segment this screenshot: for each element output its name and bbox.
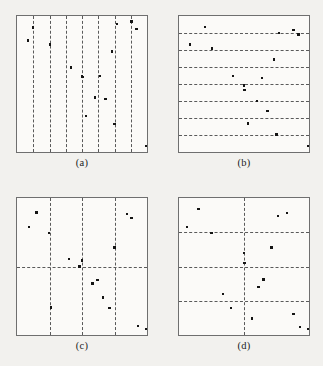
- data-point: [78, 265, 80, 267]
- data-point: [299, 326, 301, 328]
- gridline-horizontal: [179, 33, 309, 34]
- panel-c: (c): [16, 197, 148, 357]
- data-point: [210, 232, 212, 234]
- gridline-vertical: [131, 16, 132, 152]
- scatter-plot-d: [178, 197, 310, 336]
- data-point: [145, 328, 147, 330]
- data-point: [256, 100, 258, 102]
- gridline-vertical: [115, 16, 116, 152]
- scatter-plot-c: [16, 197, 148, 336]
- gridline-vertical: [82, 16, 83, 152]
- data-point: [243, 89, 245, 91]
- data-point: [130, 217, 132, 219]
- data-point: [108, 307, 110, 309]
- data-point: [292, 29, 294, 31]
- gridline-horizontal: [179, 101, 309, 102]
- data-point: [81, 76, 83, 78]
- data-point: [275, 133, 277, 135]
- data-point: [251, 317, 253, 319]
- data-point: [247, 122, 249, 124]
- data-point: [230, 307, 232, 309]
- data-point: [48, 232, 50, 234]
- data-point: [35, 211, 37, 213]
- panel-a: (a): [16, 15, 148, 175]
- data-point: [292, 313, 294, 315]
- data-point: [277, 215, 279, 217]
- data-point: [145, 145, 147, 147]
- figure-container: (a) (b) (c) (d): [0, 0, 323, 366]
- data-point: [27, 39, 29, 41]
- data-point: [262, 278, 264, 280]
- data-point: [99, 75, 101, 77]
- data-point: [137, 325, 139, 327]
- data-point: [257, 286, 259, 288]
- data-point: [102, 296, 104, 298]
- data-point: [307, 145, 309, 147]
- data-point: [113, 246, 115, 248]
- data-point: [243, 262, 245, 264]
- data-point: [278, 32, 280, 34]
- gridline-horizontal: [17, 267, 147, 268]
- gridline-vertical: [33, 16, 34, 152]
- data-point: [307, 328, 309, 330]
- data-point: [189, 43, 191, 45]
- data-point: [286, 212, 288, 214]
- gridline-vertical: [98, 16, 99, 152]
- gridline-vertical: [66, 16, 67, 152]
- data-point: [32, 26, 34, 28]
- panel-caption-d: (d): [178, 340, 310, 351]
- data-point: [261, 77, 263, 79]
- panel-caption-b: (b): [178, 157, 310, 168]
- data-point: [130, 20, 132, 22]
- data-point: [297, 33, 299, 35]
- gridline-horizontal: [179, 301, 309, 302]
- data-point: [126, 213, 128, 215]
- data-point: [243, 252, 245, 254]
- data-point: [68, 258, 70, 260]
- data-point: [104, 98, 106, 100]
- data-point: [197, 208, 199, 210]
- data-point: [243, 84, 245, 86]
- panel-d: (d): [178, 197, 310, 357]
- scatter-plot-a: [16, 15, 148, 153]
- data-point: [70, 66, 72, 68]
- gridline-horizontal: [179, 267, 309, 268]
- data-point: [49, 43, 51, 45]
- data-point: [135, 28, 137, 30]
- gridline-horizontal: [179, 118, 309, 119]
- data-point: [232, 75, 234, 77]
- data-point: [81, 259, 83, 261]
- data-point: [85, 115, 87, 117]
- data-point: [28, 226, 30, 228]
- gridline-vertical: [50, 16, 51, 152]
- data-point: [222, 293, 224, 295]
- gridline-horizontal: [179, 135, 309, 136]
- data-point: [50, 306, 52, 308]
- data-point: [113, 123, 115, 125]
- data-point: [111, 50, 113, 52]
- panel-b: (b): [178, 15, 310, 175]
- data-point: [96, 279, 98, 281]
- panel-caption-c: (c): [16, 340, 148, 351]
- data-point: [186, 226, 188, 228]
- data-point: [270, 246, 272, 248]
- gridline-horizontal: [179, 50, 309, 51]
- data-point: [116, 23, 118, 25]
- data-point: [91, 282, 93, 284]
- gridline-horizontal: [179, 67, 309, 68]
- data-point: [211, 47, 213, 49]
- data-point: [94, 96, 96, 98]
- data-point: [266, 110, 268, 112]
- data-point: [273, 58, 275, 60]
- data-point: [204, 26, 206, 28]
- panel-caption-a: (a): [16, 157, 148, 168]
- scatter-plot-b: [178, 15, 310, 153]
- gridline-horizontal: [179, 232, 309, 233]
